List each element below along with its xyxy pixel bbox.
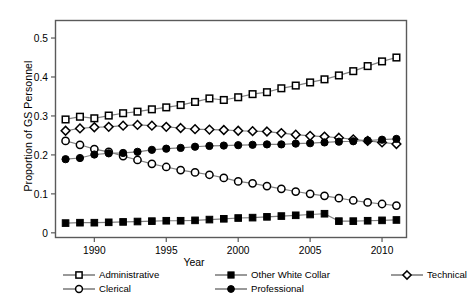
data-point xyxy=(350,197,357,204)
data-point xyxy=(62,116,69,123)
open-diamond-icon xyxy=(390,269,424,281)
data-point xyxy=(206,95,213,102)
data-point xyxy=(336,72,343,79)
data-point xyxy=(350,138,357,145)
data-point xyxy=(191,125,200,134)
data-point xyxy=(264,89,271,96)
data-point xyxy=(364,217,371,224)
data-point xyxy=(263,127,272,136)
data-point xyxy=(263,141,270,148)
data-point xyxy=(163,217,170,224)
open-square-icon xyxy=(76,272,82,278)
data-point xyxy=(149,218,156,225)
filled-square-icon xyxy=(228,272,234,278)
data-point xyxy=(263,182,270,189)
data-point xyxy=(192,99,199,106)
x-axis-label-text: Year xyxy=(183,256,204,268)
data-point xyxy=(306,190,313,197)
data-point xyxy=(119,149,126,156)
data-point xyxy=(393,202,400,209)
data-point xyxy=(235,94,242,101)
legend-label-administrative: Administrative xyxy=(96,268,161,282)
data-point xyxy=(307,79,314,86)
data-point xyxy=(221,97,228,104)
data-point xyxy=(278,85,285,92)
series-line xyxy=(66,214,397,223)
filled-circle-icon xyxy=(214,283,248,295)
legend-item-administrative: Administrative xyxy=(62,268,214,282)
data-point xyxy=(248,127,257,136)
legend-item-clerical: Clerical xyxy=(62,282,214,296)
data-point xyxy=(235,215,242,222)
data-point xyxy=(177,102,184,109)
data-point xyxy=(134,108,141,115)
data-point xyxy=(321,139,328,146)
data-point xyxy=(393,217,400,224)
data-point xyxy=(76,154,83,161)
data-point xyxy=(249,91,256,98)
data-point xyxy=(90,123,99,132)
data-point xyxy=(163,163,170,170)
data-point xyxy=(321,192,328,199)
data-point xyxy=(206,171,213,178)
data-point xyxy=(249,141,256,148)
data-point xyxy=(378,200,385,207)
data-point xyxy=(364,199,371,206)
data-point xyxy=(379,217,386,224)
data-point xyxy=(393,135,400,142)
y-tick-label: 0.5 xyxy=(34,33,48,44)
data-point xyxy=(364,63,371,70)
series-line xyxy=(66,58,397,120)
data-point xyxy=(163,104,170,111)
data-point xyxy=(205,125,214,134)
data-point xyxy=(120,219,127,226)
data-point xyxy=(306,131,315,140)
open-diamond-icon xyxy=(403,271,411,279)
data-point xyxy=(278,213,285,220)
data-point xyxy=(277,129,286,138)
data-point xyxy=(134,218,141,225)
data-point xyxy=(219,126,228,135)
data-point xyxy=(134,148,141,155)
series-technical xyxy=(61,121,401,149)
x-tick-label: 1990 xyxy=(83,245,106,256)
data-point xyxy=(307,211,314,218)
data-point xyxy=(206,142,213,149)
data-point xyxy=(120,110,127,117)
data-point xyxy=(292,82,299,89)
data-point xyxy=(105,112,112,119)
legend-label-professional: Professional xyxy=(248,282,306,296)
data-point xyxy=(119,121,128,130)
legend-row-2: Clerical Professional xyxy=(62,282,410,296)
data-point xyxy=(378,136,385,143)
legend-item-professional: Professional xyxy=(214,282,390,296)
legend-item-technical: Technical xyxy=(390,268,471,282)
data-point xyxy=(292,212,299,219)
data-point xyxy=(77,219,84,226)
data-point xyxy=(177,217,184,224)
data-point xyxy=(336,218,343,225)
data-point xyxy=(364,137,371,144)
data-point xyxy=(191,143,198,150)
data-point xyxy=(220,174,227,181)
data-point xyxy=(134,156,141,163)
data-point xyxy=(292,188,299,195)
data-point xyxy=(61,126,70,135)
data-point xyxy=(162,123,171,132)
data-point xyxy=(177,166,184,173)
legend-row-1: Administrative Other White Collar Techni… xyxy=(62,268,410,282)
data-point xyxy=(148,121,157,130)
y-tick-label: 0.2 xyxy=(34,150,48,161)
data-point xyxy=(62,156,69,163)
data-point xyxy=(91,219,98,226)
y-axis-label: Proportion of GS Personnel xyxy=(22,36,34,216)
data-point xyxy=(278,141,285,148)
data-point xyxy=(62,137,69,144)
y-tick-label: 0.3 xyxy=(34,111,48,122)
open-circle-icon xyxy=(62,283,96,295)
data-point xyxy=(91,151,98,158)
open-square-icon xyxy=(62,269,96,281)
data-point xyxy=(149,106,156,113)
data-point xyxy=(350,68,357,75)
data-point xyxy=(163,145,170,152)
